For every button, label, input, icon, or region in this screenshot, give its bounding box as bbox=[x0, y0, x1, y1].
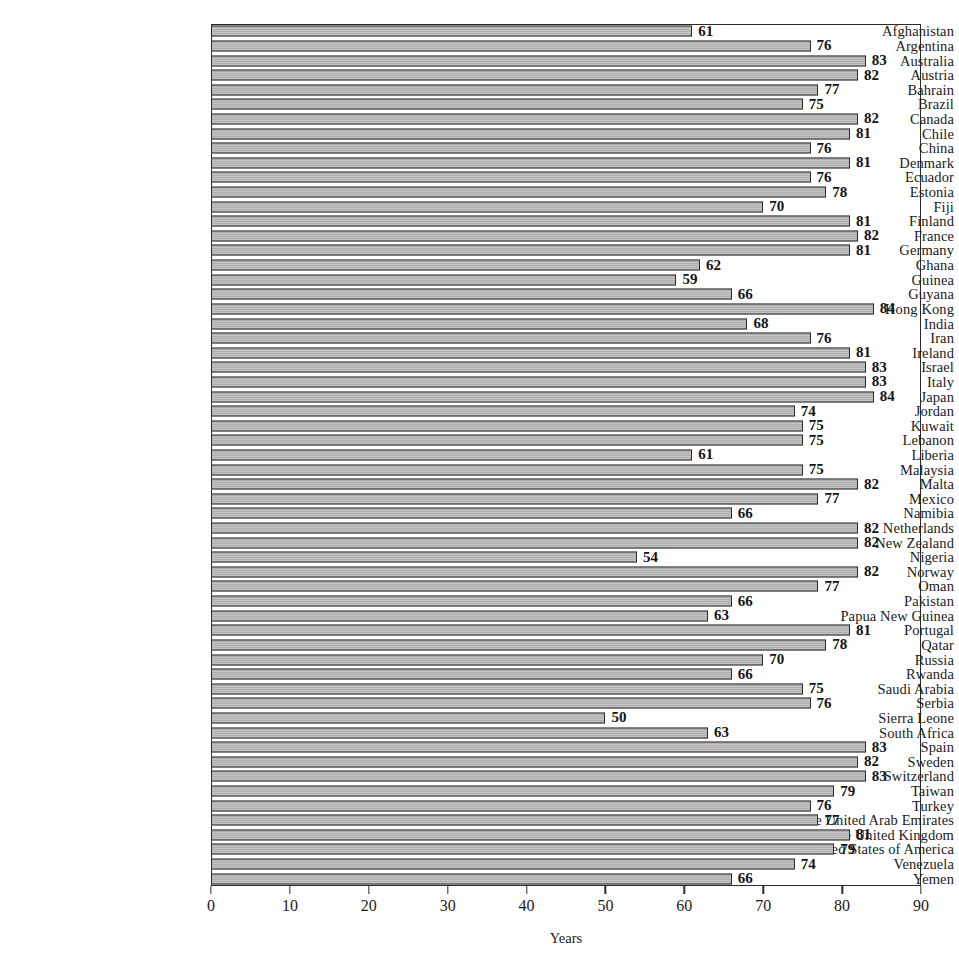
bar-value-label: 76 bbox=[811, 38, 832, 53]
bar-track: 62 bbox=[211, 260, 921, 271]
bar bbox=[211, 581, 818, 592]
bar-value-label: 78 bbox=[826, 637, 847, 652]
bar-row: China76 bbox=[0, 141, 959, 156]
bar-value-label: 79 bbox=[834, 784, 855, 799]
bar-row: South Africa63 bbox=[0, 725, 959, 740]
bar-track: 81 bbox=[211, 157, 921, 168]
bar bbox=[211, 596, 732, 607]
life-expectancy-bar-chart: Afghanistan61Argentina76Australia83Austr… bbox=[0, 0, 959, 960]
bar-value-label: 76 bbox=[811, 141, 832, 156]
bar bbox=[211, 99, 803, 110]
bar-track: 82 bbox=[211, 537, 921, 548]
bar-row: Turkey76 bbox=[0, 798, 959, 813]
bar-track: 75 bbox=[211, 464, 921, 475]
bar-value-label: 77 bbox=[818, 579, 839, 594]
bar bbox=[211, 143, 811, 154]
bar-track: 76 bbox=[211, 172, 921, 183]
bar-value-label: 66 bbox=[732, 871, 753, 886]
bar-row: Venezuela74 bbox=[0, 857, 959, 872]
bar-track: 84 bbox=[211, 391, 921, 402]
bar-row: Brazil75 bbox=[0, 97, 959, 112]
bar-track: 83 bbox=[211, 742, 921, 753]
bar-track: 76 bbox=[211, 698, 921, 709]
bar-value-label: 75 bbox=[803, 433, 824, 448]
bar-value-label: 81 bbox=[850, 623, 871, 638]
bar-value-label: 66 bbox=[732, 506, 753, 521]
x-axis-tick-label: 70 bbox=[755, 897, 771, 914]
bar-row: Denmark81 bbox=[0, 155, 959, 170]
bar-track: 84 bbox=[211, 303, 921, 314]
bar-row: Russia70 bbox=[0, 652, 959, 667]
bar bbox=[211, 537, 858, 548]
bar-row: Nigeria54 bbox=[0, 550, 959, 565]
bar-row: Taiwan79 bbox=[0, 784, 959, 799]
bar-track: 61 bbox=[211, 26, 921, 37]
bar-row: Ecuador76 bbox=[0, 170, 959, 185]
x-axis-tick bbox=[605, 886, 606, 894]
bar-row: Pakistan66 bbox=[0, 594, 959, 609]
bar-row: Germany81 bbox=[0, 243, 959, 258]
bar-row: France82 bbox=[0, 229, 959, 244]
bar-track: 82 bbox=[211, 70, 921, 81]
bar-row: Estonia78 bbox=[0, 185, 959, 200]
bar-row: Papua New Guinea63 bbox=[0, 608, 959, 623]
bar bbox=[211, 201, 763, 212]
bar-row: Italy83 bbox=[0, 375, 959, 390]
bar-value-label: 83 bbox=[866, 769, 887, 784]
bar-row: Israel83 bbox=[0, 360, 959, 375]
bar-track: 83 bbox=[211, 55, 921, 66]
bar bbox=[211, 449, 692, 460]
bar-value-label: 66 bbox=[732, 594, 753, 609]
bar bbox=[211, 260, 700, 271]
bar bbox=[211, 172, 811, 183]
bar-row: Japan84 bbox=[0, 389, 959, 404]
bar bbox=[211, 391, 874, 402]
bar-track: 59 bbox=[211, 274, 921, 285]
bar-row: Canada82 bbox=[0, 112, 959, 127]
bar-row: Netherlands82 bbox=[0, 521, 959, 536]
bar-track: 77 bbox=[211, 493, 921, 504]
bar-track: 82 bbox=[211, 113, 921, 124]
bar bbox=[211, 479, 858, 490]
x-axis-tick-label: 10 bbox=[282, 897, 298, 914]
bar-value-label: 84 bbox=[874, 389, 895, 404]
bar-track: 81 bbox=[211, 829, 921, 840]
bar-track: 81 bbox=[211, 245, 921, 256]
x-axis-tick-label: 20 bbox=[361, 897, 377, 914]
bar-value-label: 82 bbox=[858, 564, 879, 579]
x-axis-tick bbox=[447, 886, 448, 894]
bar-track: 66 bbox=[211, 873, 921, 884]
bar-track: 66 bbox=[211, 508, 921, 519]
x-axis-tick bbox=[526, 886, 527, 894]
bar bbox=[211, 800, 811, 811]
x-axis-tick bbox=[684, 886, 685, 894]
bar-value-label: 76 bbox=[811, 696, 832, 711]
bar-track: 75 bbox=[211, 683, 921, 694]
bar-track: 81 bbox=[211, 625, 921, 636]
bar-value-label: 82 bbox=[858, 477, 879, 492]
x-axis-tick-label: 80 bbox=[834, 897, 850, 914]
bar bbox=[211, 639, 826, 650]
bar-track: 76 bbox=[211, 800, 921, 811]
bar bbox=[211, 40, 811, 51]
bar-row: Mexico77 bbox=[0, 492, 959, 507]
bar-row: Hong Kong84 bbox=[0, 302, 959, 317]
bar-row: Lebanon75 bbox=[0, 433, 959, 448]
bar-row: Yemen66 bbox=[0, 871, 959, 886]
bar-track: 63 bbox=[211, 610, 921, 621]
bar-row: Guinea59 bbox=[0, 272, 959, 287]
bar-row: Serbia76 bbox=[0, 696, 959, 711]
bar bbox=[211, 347, 850, 358]
bar-track: 82 bbox=[211, 756, 921, 767]
bar-row: Portugal81 bbox=[0, 623, 959, 638]
bar bbox=[211, 508, 732, 519]
bar bbox=[211, 873, 732, 884]
bar bbox=[211, 113, 858, 124]
bar-row: Rwanda66 bbox=[0, 667, 959, 682]
bar-row: Malaysia75 bbox=[0, 462, 959, 477]
bar-value-label: 84 bbox=[874, 301, 895, 316]
bar-row: Spain83 bbox=[0, 740, 959, 755]
bar bbox=[211, 698, 811, 709]
bar-track: 74 bbox=[211, 859, 921, 870]
x-axis: 0102030405060708090 bbox=[211, 886, 921, 887]
